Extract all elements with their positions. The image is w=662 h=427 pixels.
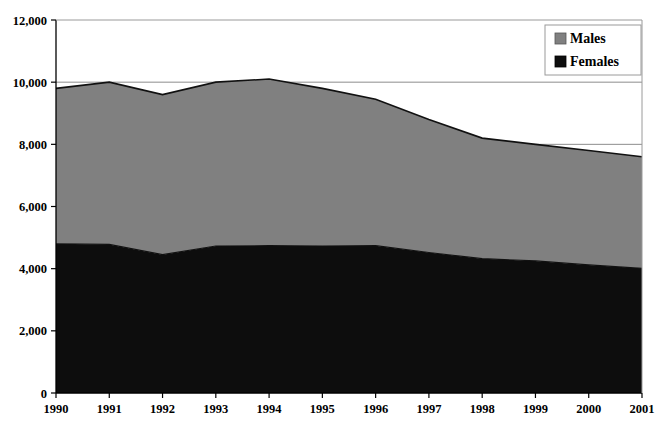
y-tick-label-12000: 12,000 [13, 14, 47, 28]
x-tick-label-1994: 1994 [257, 402, 283, 416]
x-tick-label-2001: 2001 [630, 402, 655, 416]
y-tick-label-6000: 6,000 [19, 200, 47, 214]
chart-container: 02,0004,0006,0008,00010,00012,000 199019… [0, 0, 662, 427]
x-tick-label-1990: 1990 [44, 402, 69, 416]
x-tick-label-1997: 1997 [416, 402, 441, 416]
legend-label-females: Females [570, 54, 620, 69]
x-tick-label-1995: 1995 [310, 402, 335, 416]
x-tick-label-1992: 1992 [150, 402, 175, 416]
legend-swatch-females [555, 56, 566, 67]
x-tick-label-1998: 1998 [470, 402, 495, 416]
y-tick-label-0: 0 [41, 387, 47, 401]
y-tick-label-10000: 10,000 [13, 76, 47, 90]
y-tick-label-8000: 8,000 [19, 138, 47, 152]
stacked-area-chart: 02,0004,0006,0008,00010,00012,000 199019… [0, 0, 662, 427]
y-tick-label-4000: 4,000 [19, 262, 47, 276]
legend-item-males: Males [555, 31, 606, 46]
chart-legend: Males Females [545, 25, 641, 75]
y-tick-label-2000: 2,000 [19, 324, 47, 338]
legend-swatch-males [555, 33, 566, 44]
x-tick-label-1993: 1993 [203, 402, 228, 416]
legend-item-females: Females [555, 54, 620, 69]
x-tick-label-2000: 2000 [576, 402, 601, 416]
area-series-females [56, 244, 642, 393]
legend-label-males: Males [570, 31, 606, 46]
x-tick-label-1996: 1996 [363, 402, 388, 416]
x-tick-label-1991: 1991 [97, 402, 122, 416]
x-tick-label-1999: 1999 [523, 402, 548, 416]
